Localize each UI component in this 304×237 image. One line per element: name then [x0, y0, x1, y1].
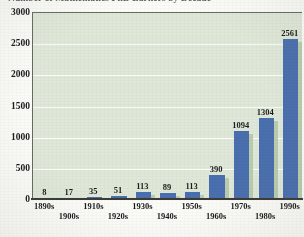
bar-value-label: 113: [185, 181, 197, 191]
bar: [283, 39, 298, 199]
bar-value-label: 2561: [281, 28, 298, 38]
chart-title: Number of Mathematics PhD Earners by Dec…: [8, 0, 211, 3]
x-axis-tick-label: 1980s: [255, 211, 275, 221]
bar: [209, 175, 224, 199]
chart-figure: Number of Mathematics PhD Earners by Dec…: [0, 0, 304, 237]
x-axis-tick-label: 1960s: [206, 211, 226, 221]
gridline: [33, 44, 302, 45]
bar-value-label: 51: [114, 185, 123, 195]
y-axis-tick-label: 0: [0, 194, 30, 204]
bar-shadow: [298, 42, 302, 199]
x-axis-tick-label: 1990s: [280, 201, 300, 211]
x-axis-tick-label: 1910s: [83, 201, 103, 211]
x-axis-tick-label: 1950s: [181, 201, 201, 211]
x-axis-tick-label: 1970s: [230, 201, 250, 211]
y-axis-tick-label: 3000: [0, 7, 30, 17]
y-axis-tick-label: 1500: [0, 101, 30, 111]
y-axis-tick-label: 1000: [0, 132, 30, 142]
y-axis: 050010001500200025003000: [0, 0, 30, 237]
y-axis-tick-label: 2500: [0, 38, 30, 48]
y-axis-tick-label: 500: [0, 163, 30, 173]
bar: [259, 118, 274, 199]
plot-area: [32, 12, 302, 199]
bar-value-label: 35: [89, 186, 98, 196]
x-axis-tick-label: 1930s: [132, 201, 152, 211]
bar: [234, 131, 249, 199]
bar-value-label: 89: [163, 182, 172, 192]
bar-value-label: 1094: [232, 120, 249, 130]
y-axis-tick-label: 2000: [0, 69, 30, 79]
bar-shadow: [225, 178, 229, 199]
bar-value-label: 1304: [257, 107, 274, 117]
bar-value-label: 113: [136, 181, 148, 191]
x-axis-tick-label: 1890s: [34, 201, 54, 211]
x-axis-tick-label: 1940s: [157, 211, 177, 221]
bar-shadow: [249, 134, 253, 199]
x-axis-line: [31, 198, 303, 200]
bar-value-label: 8: [42, 187, 46, 197]
bar-value-label: 390: [210, 164, 223, 174]
x-axis-tick-label: 1920s: [108, 211, 128, 221]
bar-value-label: 17: [65, 187, 74, 197]
x-axis-tick-label: 1900s: [59, 211, 79, 221]
gridline: [33, 75, 302, 76]
bar-shadow: [274, 121, 278, 199]
